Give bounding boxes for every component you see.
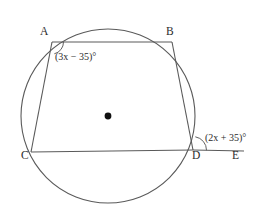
vertex-label-e: E	[232, 150, 239, 162]
segment-AC	[31, 42, 52, 152]
angle-expression-at-a: (3x − 35)°	[55, 52, 96, 62]
geometry-figure: A B C D E (3x − 35)° (2x + 35)°	[0, 0, 264, 223]
vertex-label-a: A	[40, 26, 48, 38]
vertex-label-d: D	[192, 150, 200, 162]
segment-CD	[31, 150, 193, 152]
vertex-label-c: C	[21, 150, 29, 162]
circle-center-dot	[105, 113, 112, 120]
angle-expression-at-d: (2x + 35)°	[205, 133, 246, 143]
vertex-label-b: B	[166, 26, 174, 38]
segment-BD	[172, 42, 193, 150]
